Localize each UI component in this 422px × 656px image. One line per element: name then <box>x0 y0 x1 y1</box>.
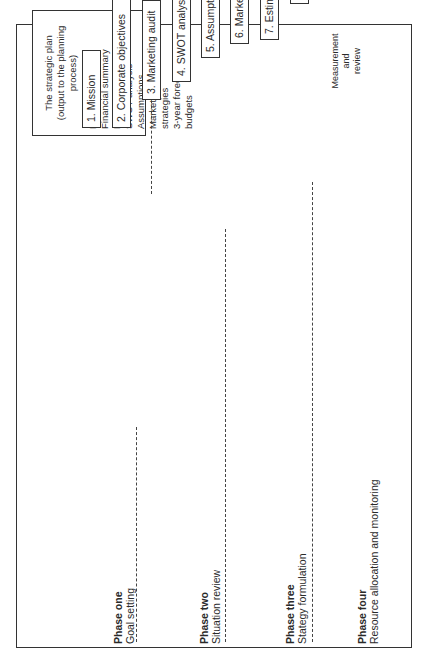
phase-divider <box>312 182 313 642</box>
phase-four-label: Phase four Resource allocation and monit… <box>356 479 380 644</box>
step-marketing-audit: 3. Marketing audit <box>142 0 161 100</box>
phase-divider <box>225 229 226 642</box>
step-estimate-results: 7. Estimate expected results <box>260 0 279 40</box>
phase-three-label: Phase three Stategy formulation <box>284 554 308 644</box>
step-alternative-plans: 8. Identify alternative plans and mixes <box>290 0 309 4</box>
step-swot-analysis: 4. SWOT analysis <box>172 0 191 82</box>
phase-one-label: Phase one Goal setting <box>112 588 136 644</box>
measurement-review-label: Measurement and review <box>330 31 363 91</box>
step-assumptions: 5. Assumptions <box>201 0 220 58</box>
phase-two-label: Phase two Situation review <box>198 570 222 644</box>
step-mission: 1. Mission <box>82 50 101 128</box>
strategic-plan-title: The strategic plan (output to the planni… <box>43 17 79 129</box>
marketing-planning-diagram: The strategic plan (output to the planni… <box>0 0 422 656</box>
step-marketing-objectives: 6. Marketing objectives and strategies <box>230 0 249 44</box>
phase-divider <box>136 427 137 642</box>
step-corporate-objectives: 2. Corporate objectives <box>112 0 131 128</box>
